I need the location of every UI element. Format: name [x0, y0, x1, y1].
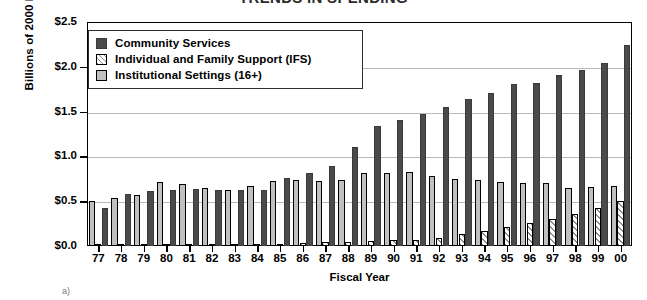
bar-ifs [368, 241, 374, 246]
bar-group [406, 22, 426, 246]
bar-ifs [413, 240, 419, 246]
bar-community-services [215, 190, 221, 246]
bar-group [497, 22, 517, 246]
bar-group [543, 22, 563, 246]
bar-community-services [170, 190, 176, 246]
bar-community-services [624, 45, 630, 246]
bar-institutional [361, 173, 367, 246]
bar-institutional [225, 190, 231, 246]
bar-ifs [163, 244, 169, 246]
bar-group [611, 22, 631, 246]
bar-institutional [543, 183, 549, 246]
legend-swatch-icon-institutional [96, 70, 107, 81]
bar-group [520, 22, 540, 246]
bar-ifs [254, 244, 260, 246]
bar-institutional [247, 186, 253, 246]
bar-institutional [134, 195, 140, 246]
bar-institutional [293, 180, 299, 246]
legend-item-ifs: Individual and Family Support (IFS) [96, 51, 356, 67]
bar-community-services [579, 70, 585, 247]
bar-institutional [452, 179, 458, 246]
bar-ifs [95, 244, 101, 246]
bar-community-services [374, 126, 380, 246]
bar-ifs [345, 242, 351, 246]
bar-ifs [186, 244, 192, 246]
bar-ifs [481, 231, 487, 246]
bar-institutional [406, 172, 412, 246]
bar-community-services [352, 147, 358, 246]
y-axis-tick-mark [80, 112, 87, 114]
legend-label-community-services: Community Services [115, 37, 231, 49]
chart-title: TRENDS IN SPENDING [0, 0, 647, 6]
bar-community-services [284, 178, 290, 246]
legend-label-institutional: Institutional Settings (16+) [115, 69, 262, 81]
y-axis-tick-mark [80, 201, 87, 203]
legend-item-institutional: Institutional Settings (16+) [96, 67, 356, 83]
bar-institutional [588, 187, 594, 246]
bar-group [361, 22, 381, 246]
legend-label-ifs: Individual and Family Support (IFS) [115, 53, 311, 65]
y-axis-tick-mark [80, 156, 87, 158]
x-axis-tick-label: 00 [606, 252, 636, 264]
bar-institutional [475, 180, 481, 246]
bar-ifs [572, 214, 578, 246]
y-axis-tick-label: $0.0 [33, 239, 77, 251]
bar-ifs [527, 223, 533, 246]
legend-swatch-icon-ifs [96, 54, 107, 65]
bar-community-services [306, 173, 312, 246]
bar-institutional [520, 183, 526, 246]
bar-community-services [443, 107, 449, 246]
bar-community-services [147, 191, 153, 246]
chart-legend: Community Services Individual and Family… [88, 30, 363, 89]
bar-group [588, 22, 608, 246]
bar-ifs [118, 244, 124, 246]
bar-institutional [497, 182, 503, 247]
bar-institutional [157, 182, 163, 246]
bar-community-services [261, 190, 267, 246]
bar-community-services [238, 190, 244, 246]
legend-item-community-services: Community Services [96, 35, 356, 51]
bar-institutional [316, 181, 322, 246]
x-axis-title: Fiscal Year [87, 271, 632, 283]
bar-group [475, 22, 495, 246]
y-axis-tick-label: $1.5 [33, 105, 77, 117]
bar-group [565, 22, 585, 246]
bar-ifs [436, 238, 442, 246]
bar-ifs [231, 244, 237, 246]
bar-group [384, 22, 404, 246]
bar-ifs [209, 244, 215, 246]
bar-community-services [193, 189, 199, 246]
bar-ifs [504, 227, 510, 246]
bar-community-services [329, 166, 335, 246]
bar-ifs [322, 242, 328, 246]
bar-ifs [141, 244, 147, 246]
bar-institutional [565, 188, 571, 246]
bar-institutional [338, 180, 344, 246]
bar-institutional [111, 198, 117, 246]
bar-community-services [511, 84, 517, 246]
bar-community-services [465, 99, 471, 246]
bar-group [452, 22, 472, 246]
bar-ifs [617, 201, 623, 246]
bar-institutional [179, 184, 185, 246]
bar-institutional [384, 173, 390, 246]
bar-community-services [125, 194, 131, 246]
bar-ifs [390, 240, 396, 246]
y-axis-tick-label: $0.5 [33, 194, 77, 206]
bar-institutional [611, 186, 617, 246]
bar-community-services [420, 114, 426, 246]
bar-community-services [601, 63, 607, 246]
bar-institutional [202, 188, 208, 246]
bar-ifs [595, 208, 601, 246]
bar-ifs [300, 243, 306, 246]
bar-ifs [549, 219, 555, 246]
bar-community-services [397, 120, 403, 246]
bar-group [429, 22, 449, 246]
y-axis-tick-mark [80, 67, 87, 69]
y-axis-tick-label: $2.0 [33, 60, 77, 72]
footnote-mark: a) [62, 286, 70, 296]
bar-institutional [89, 201, 95, 246]
bar-community-services [102, 208, 108, 246]
bar-community-services [533, 83, 539, 246]
bar-institutional [270, 181, 276, 246]
